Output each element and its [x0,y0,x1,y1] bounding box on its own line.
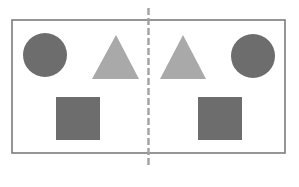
right-half [160,34,275,140]
symmetry-diagram [0,0,299,187]
right-square-shape [198,97,242,140]
left-triangle-shape [92,35,139,79]
left-half [23,33,139,140]
left-square-shape [56,97,100,140]
right-circle-shape [231,34,275,78]
right-triangle-shape [160,35,206,79]
left-circle-shape [23,33,67,77]
